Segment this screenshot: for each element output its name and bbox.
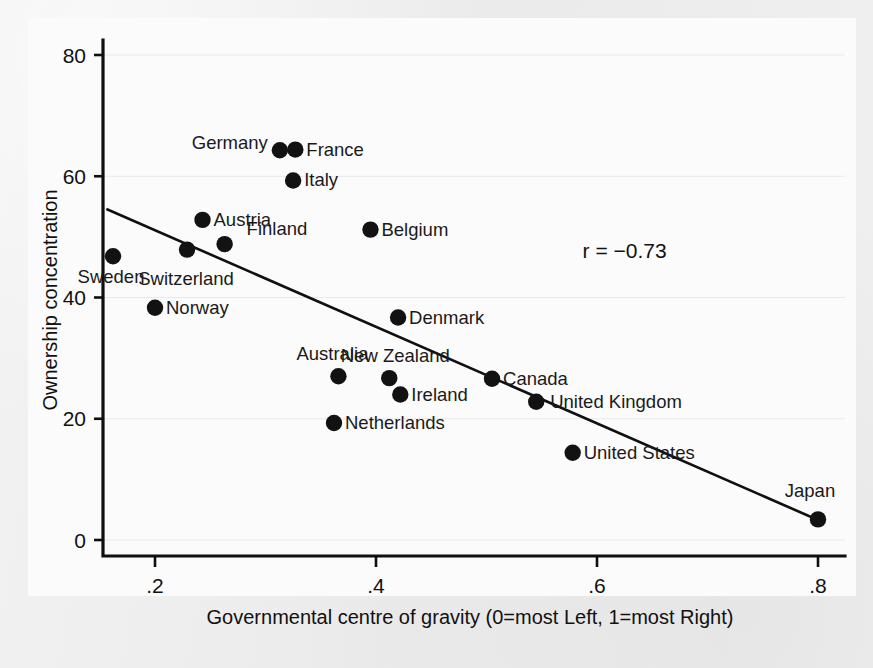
- data-point-marker: [216, 236, 232, 252]
- data-point-label: New Zealand: [341, 345, 450, 366]
- data-point-marker: [330, 368, 346, 384]
- data-point-marker: [528, 394, 544, 410]
- data-point-marker: [105, 248, 121, 264]
- data-point-marker: [362, 221, 378, 237]
- data-point-label: Canada: [503, 368, 569, 389]
- data-point-marker: [285, 172, 301, 188]
- y-tick-label: 60: [63, 165, 86, 188]
- y-tick-labels: 020406080: [63, 44, 86, 552]
- figure-page: 020406080 .2.4.6.8 SwedenNorwaySwitzerla…: [0, 0, 873, 668]
- data-point-label: Netherlands: [345, 412, 445, 433]
- data-point-marker: [484, 371, 500, 387]
- x-tick-label: .8: [809, 574, 827, 597]
- regression-line-path: [106, 209, 818, 520]
- data-point-label: Norway: [166, 297, 229, 318]
- x-tick-label: .4: [367, 574, 385, 597]
- regression-line: [106, 209, 818, 520]
- data-point-marker: [326, 415, 342, 431]
- data-point-label: Japan: [785, 480, 835, 501]
- correlation-annotation: r = −0.73: [583, 239, 667, 262]
- data-point-marker: [392, 386, 408, 402]
- data-points: [105, 141, 826, 527]
- x-tick-labels: .2.4.6.8: [146, 574, 827, 597]
- data-point-marker: [564, 445, 580, 461]
- scatter-plot: 020406080 .2.4.6.8 SwedenNorwaySwitzerla…: [0, 0, 873, 668]
- data-point-label: Denmark: [409, 307, 485, 328]
- data-point-marker: [287, 141, 303, 157]
- annotations: r = −0.73: [583, 239, 667, 262]
- data-point-label: Italy: [304, 169, 339, 190]
- data-point-marker: [381, 370, 397, 386]
- y-tick-label: 40: [63, 286, 86, 309]
- data-point-marker: [810, 511, 826, 527]
- data-point-labels: SwedenNorwaySwitzerlandAustriaFinlandGer…: [78, 132, 836, 501]
- data-point-label: Sweden: [78, 266, 145, 287]
- y-tick-label: 80: [63, 44, 86, 67]
- data-point-label: United States: [584, 442, 695, 463]
- x-axis-title: Governmental centre of gravity (0=most L…: [207, 606, 734, 628]
- data-point-label: Belgium: [381, 219, 448, 240]
- data-point-label: France: [306, 139, 364, 160]
- data-point-label: Ireland: [411, 384, 468, 405]
- y-tick-label: 20: [63, 407, 86, 430]
- data-point-marker: [272, 142, 288, 158]
- y-axis-title: Ownership concentration: [39, 189, 61, 410]
- data-point-marker: [194, 212, 210, 228]
- data-point-marker: [179, 241, 195, 257]
- x-tick-label: .6: [588, 574, 606, 597]
- data-point-label: Finland: [247, 218, 308, 239]
- data-point-marker: [390, 309, 406, 325]
- data-point-label: Switzerland: [138, 268, 234, 289]
- data-point-label: United Kingdom: [550, 391, 682, 412]
- data-point-marker: [147, 300, 163, 316]
- x-tick-label: .2: [146, 574, 164, 597]
- data-point-label: Germany: [192, 132, 269, 153]
- y-tick-label: 0: [74, 529, 86, 552]
